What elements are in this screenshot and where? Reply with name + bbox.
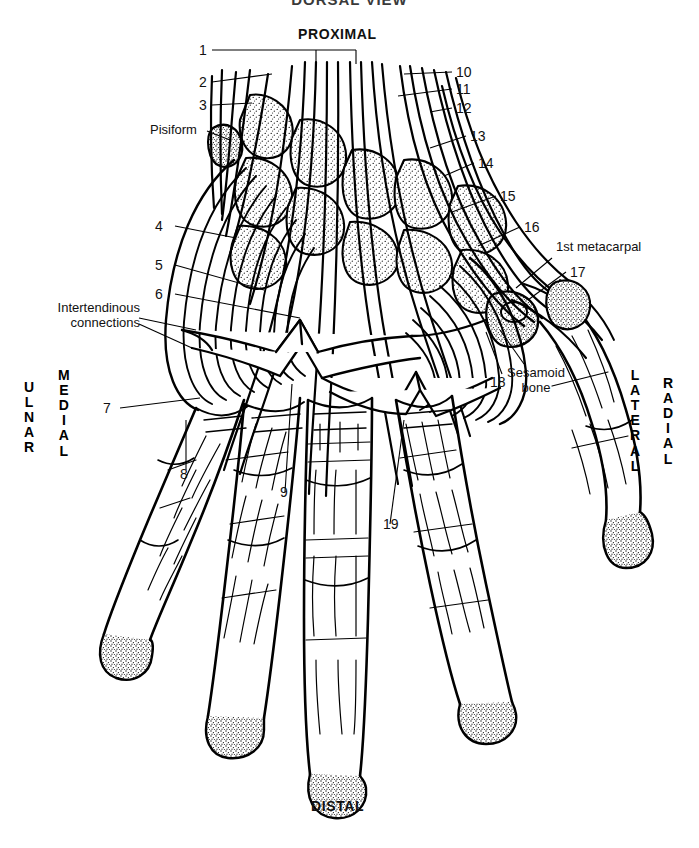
orientation-lateral: LATERAL (630, 368, 640, 474)
label-7: 7 (103, 400, 111, 416)
label-10: 10 (456, 64, 472, 80)
label-9: 9 (280, 484, 288, 500)
label-12: 12 (456, 100, 472, 116)
finger-little (100, 400, 244, 680)
orientation-proximal: PROXIMAL (298, 26, 377, 42)
label-11: 11 (456, 81, 471, 97)
label-19: 19 (383, 516, 399, 532)
label-13: 13 (470, 128, 486, 144)
label-14: 14 (478, 155, 494, 171)
figure-canvas: DORSAL VIEW (0, 0, 699, 848)
label-17: 17 (570, 264, 586, 280)
label-sesamoid-bone: Sesamoid bone (499, 365, 573, 396)
label-intertendinous-connections: Intertendinous connections (52, 300, 140, 331)
label-first-metacarpal: 1st metacarpal (556, 240, 641, 255)
orientation-ulnar: ULNAR (24, 380, 34, 456)
orientation-radial: RADIAL (663, 376, 673, 467)
label-3: 3 (199, 97, 207, 113)
finger-index (396, 396, 516, 744)
label-1: 1 (199, 42, 207, 58)
label-pisiform: Pisiform (150, 123, 197, 138)
label-4: 4 (155, 218, 163, 234)
label-6: 6 (155, 286, 163, 302)
label-5: 5 (155, 257, 163, 273)
intertendinous-line-2: connections (71, 315, 140, 330)
sesamoid-line-1: Sesamoid (507, 365, 565, 380)
finger-ring (206, 398, 300, 758)
orientation-distal: DISTAL (311, 798, 364, 814)
label-16: 16 (524, 219, 540, 235)
orientation-medial: MEDIAL (58, 368, 70, 459)
sesamoid-line-2: bone (522, 380, 551, 395)
pisiform-bone (208, 125, 242, 167)
finger-middle (304, 398, 372, 818)
label-15: 15 (500, 188, 516, 204)
label-2: 2 (199, 74, 207, 90)
label-8: 8 (180, 466, 188, 482)
intertendinous-line-1: Intertendinous (58, 300, 140, 315)
hand-dorsal-illustration (0, 0, 699, 848)
